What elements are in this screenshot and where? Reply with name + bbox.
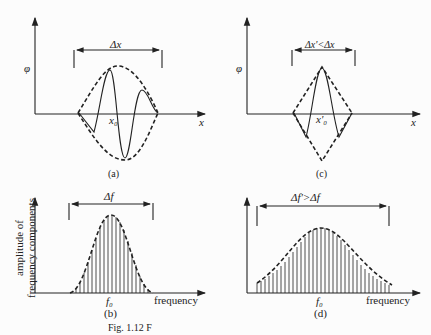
panel-d-center-label: f₀ <box>316 295 323 307</box>
panel-b-width-label: Δf <box>104 190 114 202</box>
panel-d-x-label: frequency <box>366 294 410 306</box>
figure-caption: Fig. 1.12 F <box>108 322 152 333</box>
panel-a-width-label: Δx <box>110 38 121 50</box>
panel-c-x-label: x <box>411 116 416 128</box>
panel-b <box>35 198 205 293</box>
panel-a-center-label: x₀ <box>109 114 118 126</box>
panel-c-caption: (c) <box>316 168 327 179</box>
panel-b-center-label: f₀ <box>106 295 113 307</box>
panel-b-x-label: frequency <box>154 294 198 306</box>
panel-b-caption: (b) <box>104 307 117 319</box>
panel-d-caption: (d) <box>314 307 327 319</box>
panel-c-width-label: Δx'<Δx <box>305 39 335 50</box>
panel-a-x-label: x <box>199 116 204 128</box>
panel-a-caption: (a) <box>108 168 119 179</box>
panel-c-center-label: x'₀ <box>316 113 327 125</box>
figure: φ x Δx x₀ (a) φ x Δx'<Δx x'₀ (c) amplitu… <box>0 0 431 335</box>
figure-drawing <box>0 0 431 335</box>
panel-c-y-label: φ <box>236 62 242 74</box>
panel-d <box>247 198 420 293</box>
panel-d-width-label: Δf'>Δf <box>291 191 320 203</box>
panel-a-y-label: φ <box>24 62 30 74</box>
panel-b-y-label: amplitude of frequency components <box>13 183 37 313</box>
